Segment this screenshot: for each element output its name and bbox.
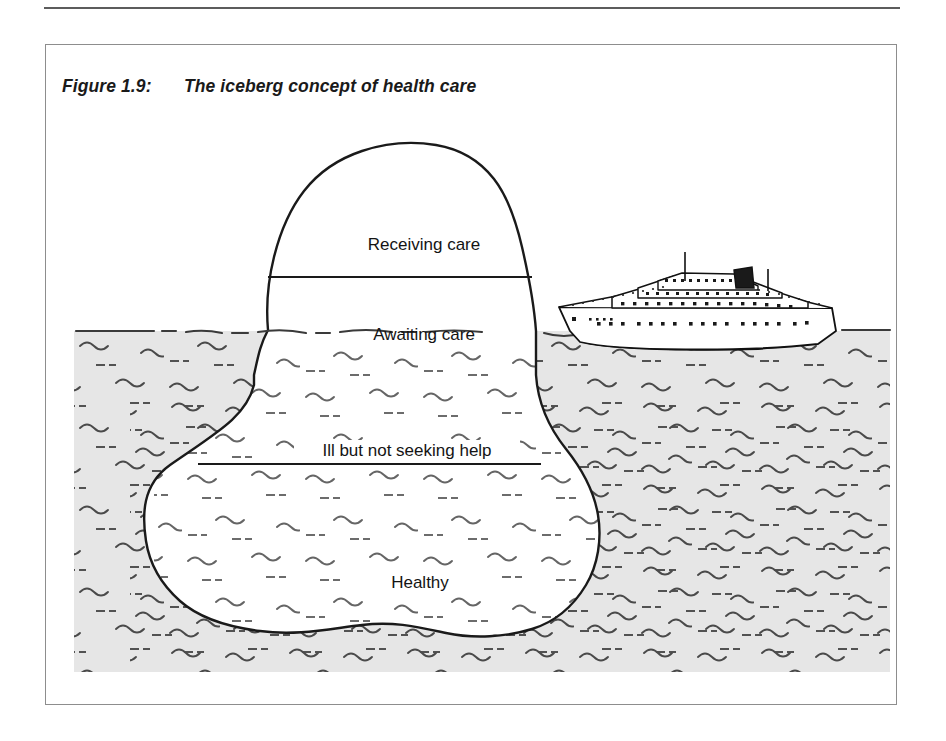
label-healthy: Healthy <box>391 573 449 592</box>
iceberg-illustration: Receiving care Awaiting care Ill but not… <box>46 45 896 704</box>
label-ill-but-not-seeking-help: Ill but not seeking help <box>322 441 491 460</box>
page-top-rule <box>44 7 900 9</box>
label-receiving-care: Receiving care <box>368 235 480 254</box>
ocean-liner-ship <box>559 252 836 351</box>
ship-funnel <box>734 267 754 288</box>
label-awaiting-care: Awaiting care <box>373 325 475 344</box>
ship-hull <box>559 307 836 349</box>
page-canvas: Figure 1.9:The iceberg concept of health… <box>0 0 946 741</box>
